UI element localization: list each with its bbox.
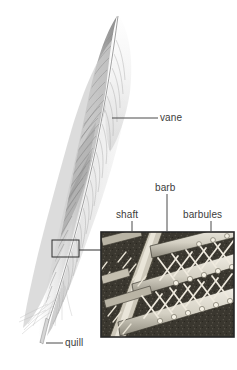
magnified-detail-inset [101,224,237,342]
label-vane: vane [160,112,182,123]
label-barb: barb [155,182,175,193]
feather-anatomy-figure [0,0,237,370]
label-shaft: shaft [116,209,138,220]
figure-caption [6,362,232,370]
label-barbules: barbules [183,209,222,220]
label-quill: quill [65,337,83,348]
